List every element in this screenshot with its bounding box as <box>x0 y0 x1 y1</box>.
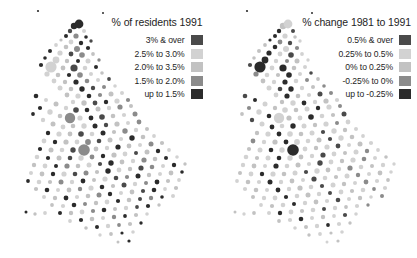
legend-label: 0.25% to 0.5% <box>338 49 393 59</box>
cartogram-circle <box>64 163 69 168</box>
cartogram-circle <box>302 147 307 152</box>
legend-label: -0.25% to 0% <box>343 76 393 86</box>
cartogram-circle <box>309 154 313 158</box>
cartogram-circle <box>273 59 277 63</box>
cartogram-circle <box>254 131 258 135</box>
cartogram-circle <box>259 203 263 207</box>
cartogram-circle <box>254 156 258 160</box>
cartogram-circle <box>65 93 70 98</box>
cartogram-circle <box>123 152 128 157</box>
legend-swatch <box>399 62 411 72</box>
cartogram-circle <box>172 163 176 167</box>
cartogram-circle <box>64 45 69 50</box>
cartogram-circle <box>266 114 271 119</box>
cartogram-circle <box>69 52 74 57</box>
cartogram-circle <box>335 121 339 125</box>
cartogram-circle <box>42 139 47 144</box>
cartogram-circle <box>253 71 258 76</box>
cartogram-circle <box>240 112 244 116</box>
cartogram-circle <box>145 127 149 131</box>
cartogram-circle <box>145 212 149 216</box>
cartogram-circle <box>361 157 366 162</box>
cartogram-circle <box>174 186 178 190</box>
legend-row[interactable]: 2.5% to 3.0% <box>135 48 203 60</box>
cartogram-circle <box>152 134 156 138</box>
cartogram-circle <box>50 203 54 207</box>
legend-row[interactable]: up to 1.5% <box>144 88 202 100</box>
cartogram-circle <box>360 188 365 193</box>
cartogram-circle <box>57 156 62 161</box>
cartogram-circle <box>98 162 102 166</box>
legend-row[interactable]: 0.5% & over <box>347 34 411 46</box>
cartogram-circle <box>105 146 109 150</box>
cartogram-circle <box>269 66 274 71</box>
cartogram-circle <box>112 215 116 219</box>
cartogram-circle <box>129 104 133 108</box>
cartogram-circle <box>117 104 122 109</box>
cartogram-circle <box>90 155 95 160</box>
cartogram-circle <box>320 215 324 219</box>
cartogram-circle <box>272 196 277 201</box>
cartogram-circle <box>59 38 62 41</box>
cartogram-circle <box>69 40 74 45</box>
legend-row[interactable]: 3% & over <box>146 34 203 46</box>
legend-row[interactable]: up to -0.25% <box>345 88 411 100</box>
cartogram-circle <box>287 131 293 137</box>
cartogram-circle <box>183 162 186 165</box>
cartogram-circle <box>114 121 119 126</box>
legend-label: up to -0.25% <box>345 89 393 99</box>
cartogram-circle <box>298 217 303 222</box>
cartogram-circle <box>257 49 261 53</box>
legend-row[interactable]: 1.5% to 2.0% <box>135 75 203 87</box>
cartogram-circle <box>31 112 35 116</box>
cartogram-circle <box>93 101 98 106</box>
legend-row[interactable]: 2.0% to 3.5% <box>135 61 203 73</box>
cartogram-circle <box>169 171 174 176</box>
cartogram-circle <box>46 131 50 135</box>
cartogram-circle <box>131 159 135 163</box>
legend-row[interactable]: 0% to 0.25% <box>345 61 411 73</box>
cartogram-circle <box>323 121 328 126</box>
cartogram-circle <box>276 156 281 161</box>
cartogram-circle <box>263 164 267 168</box>
cartogram-circle <box>63 80 67 84</box>
cartogram-circle <box>116 199 120 203</box>
cartogram-circle <box>131 230 135 234</box>
cartogram-circle <box>242 187 246 191</box>
cartogram-circle <box>243 155 248 160</box>
cartogram-circle <box>331 128 336 133</box>
cartogram-circle <box>275 188 280 193</box>
cartogram-circle <box>301 178 305 182</box>
legend-label: 1.5% to 2.0% <box>135 76 185 86</box>
cartogram-circle <box>35 155 40 160</box>
cartogram-circle <box>246 147 250 151</box>
cartogram-circle <box>61 125 66 130</box>
legend-row[interactable]: 0.25% to 0.5% <box>338 48 411 60</box>
cartogram-circle <box>336 167 340 171</box>
cartogram-circle <box>253 98 257 102</box>
cartogram-circle <box>314 224 318 228</box>
cartogram-circle <box>363 180 368 185</box>
cartogram-circle <box>43 56 47 60</box>
cartogram-circle <box>65 59 69 63</box>
cartogram-circle <box>37 10 39 12</box>
cartogram-circle <box>245 180 250 185</box>
cartogram-circle <box>127 198 132 203</box>
cartogram-circle <box>53 196 57 200</box>
cartogram-circle <box>25 211 28 214</box>
legend-swatch <box>399 76 411 86</box>
cartogram-circle <box>56 73 61 78</box>
cartogram-circle <box>127 239 130 242</box>
cartogram-circle <box>247 63 251 67</box>
cartogram-circle <box>335 198 340 203</box>
cartogram-circle <box>68 219 72 223</box>
cartogram-circle <box>350 157 355 162</box>
cartogram-circle <box>286 187 290 191</box>
cartogram-circle <box>336 222 340 226</box>
cartogram-circle <box>43 211 47 215</box>
legend-row[interactable]: -0.25% to 0% <box>343 75 411 87</box>
cartogram-circle <box>54 43 58 47</box>
cartogram-circle <box>386 178 390 182</box>
cartogram-circle <box>138 197 142 201</box>
cartogram-circle <box>100 185 105 190</box>
